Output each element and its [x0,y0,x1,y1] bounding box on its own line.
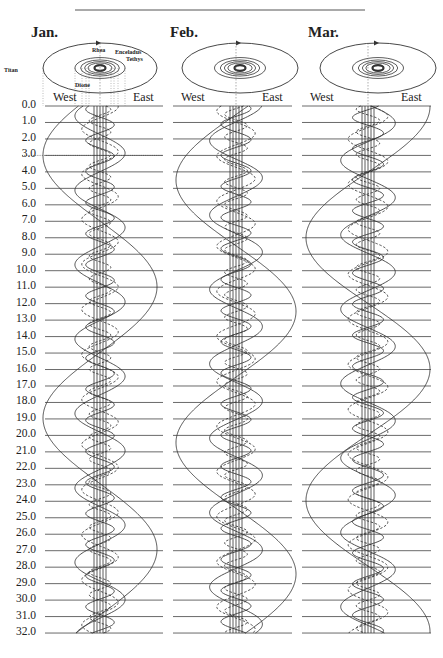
day-label: 31.0 [0,609,36,621]
day-label: 21.0 [0,444,36,456]
panel-mar [302,41,436,634]
month-label: Jan. [31,24,58,41]
moon-label-titan: Titan [4,67,18,73]
east-label: East [401,90,422,105]
day-label: 19.0 [0,411,36,423]
day-label: 9.0 [0,246,36,258]
day-label: 29.0 [0,576,36,588]
day-label: 30.0 [0,592,36,604]
moon-label-tethys: Tethys [126,56,143,62]
day-label: 8.0 [0,230,36,242]
day-label: 25.0 [0,510,36,522]
day-label: 5.0 [0,180,36,192]
day-label: 12.0 [0,296,36,308]
east-label: East [262,90,283,105]
day-label: 10.0 [0,263,36,275]
day-label: 20.0 [0,427,36,439]
day-label: 22.0 [0,460,36,472]
moon-label-dione: Dione [75,82,90,88]
day-label: 26.0 [0,526,36,538]
day-label: 13.0 [0,312,36,324]
west-label: West [310,90,334,105]
panel-feb [173,41,298,634]
day-label: 17.0 [0,378,36,390]
month-label: Mar. [308,24,339,41]
day-label: 14.0 [0,329,36,341]
orbit-direction-arrow-icon [236,41,241,46]
day-label: 32.0 [0,625,36,637]
day-label: 3.0 [0,147,36,159]
panel-jan [22,41,163,634]
day-label: 7.0 [0,213,36,225]
day-label: 6.0 [0,197,36,209]
day-label: 15.0 [0,345,36,357]
day-label: 16.0 [0,362,36,374]
day-label: 0.0 [0,98,36,110]
day-label: 18.0 [0,394,36,406]
moon-label-enceladus: Enceladus [115,49,141,55]
day-label: 23.0 [0,477,36,489]
day-label: 24.0 [0,493,36,505]
west-label: West [181,90,205,105]
day-label: 27.0 [0,543,36,555]
east-label: East [133,90,154,105]
day-label: 4.0 [0,164,36,176]
day-label: 11.0 [0,279,36,291]
orbit-direction-arrow-icon [374,41,379,46]
day-label: 1.0 [0,114,36,126]
day-label: 28.0 [0,559,36,571]
moon-label-rhea: Rhea [92,47,105,53]
day-label: 2.0 [0,131,36,143]
west-label: West [53,90,77,105]
month-label: Feb. [170,24,198,41]
saturn-icon [373,65,384,71]
